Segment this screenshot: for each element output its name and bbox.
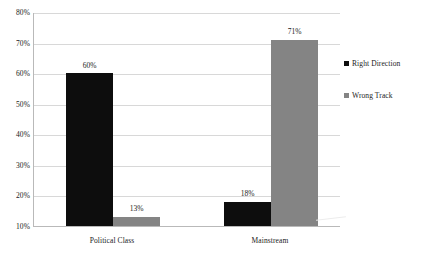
bar-value-mainstream-right-direction: 18% — [241, 190, 255, 198]
y-axis-tick-60: 60% — [2, 70, 30, 78]
y-axis-tick-70: 70% — [2, 40, 30, 48]
legend-swatch-icon-wrong-track — [344, 93, 349, 98]
y-axis-tick-40: 40% — [2, 132, 30, 140]
legend-swatch-icon-right-direction — [344, 61, 349, 66]
bar-mainstream-right-direction — [224, 202, 271, 226]
plot-area: 60% 13% 18% 71% — [33, 13, 340, 227]
y-axis-labels: 80% 70% 60% 50% 40% 30% 20% 10% — [0, 13, 30, 227]
legend-label-right-direction: Right Direction — [352, 60, 400, 68]
bar-mainstream-wrong-track — [271, 40, 318, 226]
y-axis-tick-80: 80% — [2, 9, 30, 17]
legend-label-wrong-track: Wrong Track — [352, 92, 393, 100]
y-axis-tick-10: 10% — [2, 223, 30, 231]
gridline-80 — [34, 13, 340, 14]
bar-value-mainstream-wrong-track: 71% — [288, 28, 302, 36]
category-label-mainstream: Mainstream — [252, 236, 289, 245]
legend-item-right-direction: Right Direction — [344, 60, 422, 68]
chart-legend: Right Direction Wrong Track — [344, 60, 422, 123]
bar-political-class-wrong-track — [113, 217, 160, 226]
bar-chart: 80% 70% 60% 50% 40% 30% 20% 10% 60% 13% … — [0, 0, 422, 272]
y-axis-tick-50: 50% — [2, 101, 30, 109]
y-axis-tick-20: 20% — [2, 193, 30, 201]
legend-item-wrong-track: Wrong Track — [344, 92, 422, 100]
bar-value-political-class-right-direction: 60% — [83, 62, 97, 70]
bar-value-political-class-wrong-track: 13% — [130, 205, 144, 213]
category-label-political-class: Political Class — [90, 236, 135, 245]
bar-political-class-right-direction — [66, 73, 113, 226]
y-axis-tick-30: 30% — [2, 162, 30, 170]
